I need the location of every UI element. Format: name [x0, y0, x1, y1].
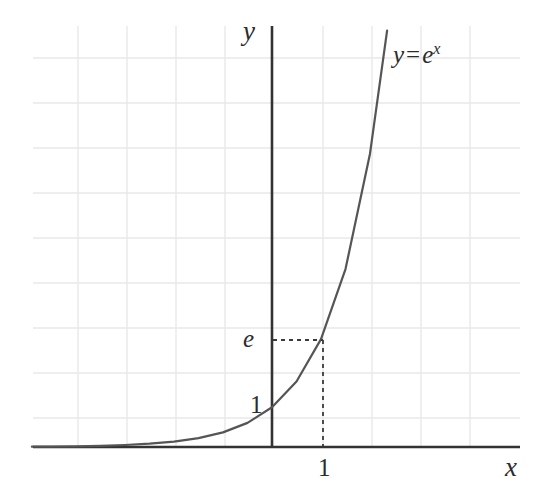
curve-equation-exponent: x — [433, 40, 440, 57]
curve-equation-base: e — [422, 41, 433, 68]
x-axis-label: x — [505, 454, 517, 481]
plot-canvas — [0, 0, 545, 500]
grid-lines-vertical — [78, 26, 470, 447]
y-axis-label: y — [243, 18, 255, 45]
y-tick-label-e: e — [243, 326, 254, 351]
x-tick-label-one: 1 — [318, 455, 331, 480]
grid-lines-horizontal — [33, 58, 520, 418]
y-tick-label-one: 1 — [250, 392, 263, 417]
exponential-function-figure: y x y=ex e 1 1 — [0, 0, 545, 500]
curve-equation-lhs: y — [393, 41, 404, 68]
curve-equation-label: y=ex — [393, 42, 440, 67]
curve-equation-operator: = — [404, 41, 422, 68]
